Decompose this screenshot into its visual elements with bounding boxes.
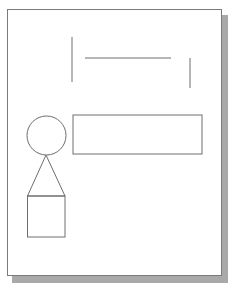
diagram-canvas [0, 0, 237, 291]
square-shape [28, 196, 66, 237]
wide-rectangle-shape [73, 115, 202, 154]
shapes-layer [0, 0, 237, 291]
circle-shape [27, 116, 66, 155]
triangle-shape [28, 155, 66, 196]
